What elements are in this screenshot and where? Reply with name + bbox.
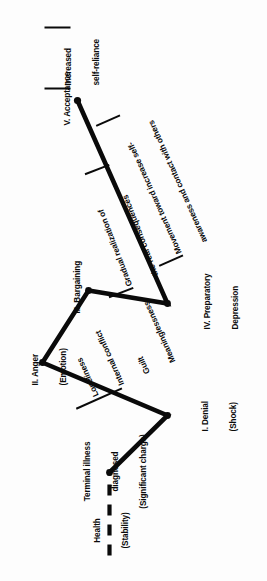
stage-label-prep-dep-line2: Depression <box>230 243 239 329</box>
annotation-anger-line3: Guilt <box>116 310 152 375</box>
annotation-increased-self-reliance-bracket-right <box>44 26 70 28</box>
stage-label-anger-line1: II. Anger <box>30 313 39 385</box>
stage-label-bargaining-line1: III. Bargaining <box>72 229 81 313</box>
annotation-reliance-line2: self-reliance <box>91 38 100 84</box>
annotation-reliance-line1: Increased <box>63 38 72 84</box>
stage-label-prep-dep-line1: IV. Preparatory <box>202 243 211 329</box>
annotation-anger-line2: Internal conflict <box>90 322 126 387</box>
rotated-figure-wrapper: Health (Stability) Terminal illness diag… <box>0 0 267 581</box>
stage-label-denial-line2: (Shock) <box>228 361 237 431</box>
stage-label-preparatory-depression: IV. Preparatory Depression <box>184 243 258 329</box>
stage-label-denial: I. Denial (Shock) <box>182 361 256 431</box>
onset-label-line2: diagnosed <box>110 423 119 519</box>
annotation-anger-line1: Loneliness <box>65 333 101 398</box>
stage-label-denial-line1: I. Denial <box>200 361 209 431</box>
onset-label-line3: (Significant charge) <box>138 423 147 519</box>
annotation-anger-line4: Meaninglessness <box>142 299 178 364</box>
onset-label: Terminal illness diagnosed (Significant … <box>64 423 165 519</box>
annotation-increased-self-reliance-text: Increased self-reliance <box>44 36 70 87</box>
grief-stages-diagram: Health (Stability) Terminal illness diag… <box>0 0 267 581</box>
annotation-bracket-right <box>44 26 70 28</box>
onset-label-line1: Terminal illness <box>82 423 91 519</box>
figure-canvas: Health (Stability) Terminal illness diag… <box>0 0 267 581</box>
annotation-increased-self-reliance: Increased self-reliance <box>44 36 70 89</box>
